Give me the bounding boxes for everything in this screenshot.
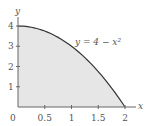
chart: 0.511.52 1234 0 x y y = 4 − x² [0, 0, 150, 126]
y-tick-label: 3 [8, 41, 14, 51]
x-tick-label: 2 [122, 113, 128, 123]
x-tick-label: 0.5 [38, 113, 53, 123]
x-tick-label: 1.5 [91, 113, 106, 123]
y-tick-label: 2 [8, 62, 14, 72]
y-tick-label: 1 [8, 82, 14, 92]
x-axis-label: x [138, 101, 143, 111]
x-ticks: 0.511.52 [38, 105, 128, 123]
x-tick-label: 1 [69, 113, 75, 123]
y-tick-label: 4 [8, 21, 14, 31]
origin-label: 0 [10, 113, 16, 123]
function-label: y = 4 − x² [74, 37, 121, 47]
y-axis-label: y [14, 6, 21, 16]
